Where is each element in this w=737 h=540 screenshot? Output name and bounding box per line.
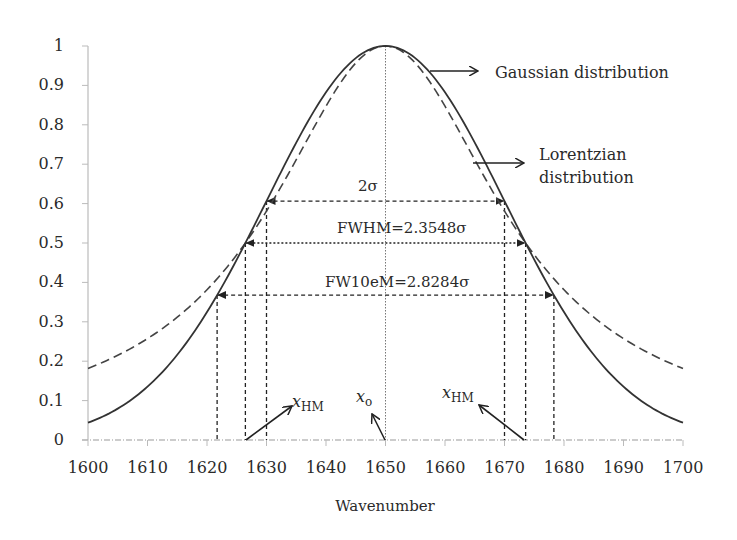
y-tick-label: 0 [54, 430, 64, 449]
axes: 00.10.20.30.40.50.60.70.80.9116001610162… [39, 36, 704, 477]
y-tick-label: 0.3 [39, 312, 64, 331]
x-tick-label: 1670 [484, 458, 525, 477]
xhm-left-arrow [246, 406, 292, 440]
annotations: Gaussian distribution Lorentzian distrib… [292, 63, 669, 515]
xhm-right-label: xHM [442, 383, 474, 405]
xhm-right-arrow [479, 405, 524, 440]
fw10em-label: FW10eM=2.8284σ [325, 273, 469, 291]
xhm-left-label: xHM [292, 392, 324, 414]
x-axis-label: Wavenumber [335, 497, 435, 515]
x0-arrow [372, 414, 385, 440]
chart-canvas: 00.10.20.30.40.50.60.70.80.9116001610162… [0, 0, 737, 540]
x0-label: xo [356, 387, 372, 409]
two-sigma-label: 2σ [358, 177, 378, 195]
x-tick-label: 1650 [365, 458, 406, 477]
y-tick-label: 0.2 [39, 351, 64, 370]
y-tick-label: 0.7 [39, 154, 64, 173]
y-tick-label: 0.1 [39, 391, 64, 410]
y-tick-label: 0.4 [39, 272, 64, 291]
x-tick-label: 1620 [187, 458, 228, 477]
y-tick-label: 0.8 [39, 115, 64, 134]
y-tick-label: 1 [54, 36, 64, 55]
fwhm-label: FWHM=2.3548σ [337, 219, 467, 237]
x-tick-label: 1640 [306, 458, 347, 477]
gaussian-label: Gaussian distribution [495, 63, 669, 82]
lorentzian-label-line1: Lorentzian [539, 145, 627, 164]
y-tick-label: 0.6 [39, 194, 64, 213]
x-tick-label: 1690 [603, 458, 644, 477]
x-tick-label: 1630 [246, 458, 287, 477]
guide-lines [217, 46, 554, 440]
x-tick-label: 1600 [68, 458, 109, 477]
x-tick-label: 1680 [544, 458, 585, 477]
y-tick-label: 0.5 [39, 233, 64, 252]
gaussian-lorentzian-chart: 00.10.20.30.40.50.60.70.80.9116001610162… [0, 0, 737, 540]
lorentzian-label-line2: distribution [539, 168, 634, 187]
x-tick-label: 1610 [127, 458, 168, 477]
x-tick-label: 1700 [663, 458, 704, 477]
x-tick-label: 1660 [425, 458, 466, 477]
y-tick-label: 0.9 [39, 75, 64, 94]
